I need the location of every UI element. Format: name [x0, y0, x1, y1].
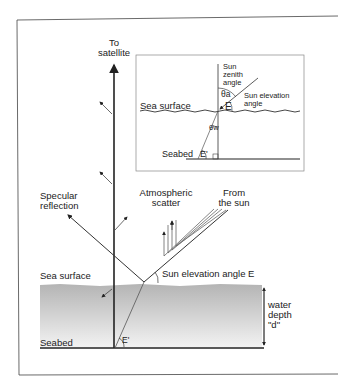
- from-sun-label: the sun: [218, 197, 249, 208]
- sea-surface-label: Sea surface: [40, 270, 91, 281]
- atmospheric-scatter-label: scatter: [152, 197, 181, 208]
- inset-seabed-label: Seabed: [162, 149, 193, 159]
- water-body: [40, 284, 262, 347]
- seabed-label: Seabed: [40, 337, 73, 348]
- inset-e-label: E: [225, 101, 232, 112]
- zenith-angle-label: angle: [223, 78, 241, 87]
- atmos-scatter-path: [168, 209, 218, 253]
- theta-w-label: θw: [209, 123, 219, 132]
- elevation-angle-arc: [155, 272, 158, 283]
- e-prime-label: E': [122, 335, 130, 345]
- scatter-arrow: [115, 217, 127, 230]
- atmos-scatter-path: [164, 209, 214, 256]
- remote-sensing-diagram: To satellite Specular reflection Atmosph…: [0, 0, 338, 384]
- specular-reflection-label: reflection: [40, 200, 79, 211]
- inset-e-prime-label: E': [200, 149, 208, 159]
- inset-sea-surface-label: Sea surface: [140, 100, 191, 111]
- sun-elevation-angle-label: angle: [244, 99, 262, 108]
- sun-elevation-label: Sun elevation angle E: [162, 268, 254, 279]
- scatter-arrow: [100, 172, 112, 184]
- atmos-scatter-path: [176, 210, 226, 246]
- theta-a-label: θa: [221, 89, 231, 99]
- water-depth-label: "d": [268, 319, 280, 330]
- scatter-arrow: [100, 102, 112, 114]
- to-satellite-label: satellite: [98, 47, 130, 58]
